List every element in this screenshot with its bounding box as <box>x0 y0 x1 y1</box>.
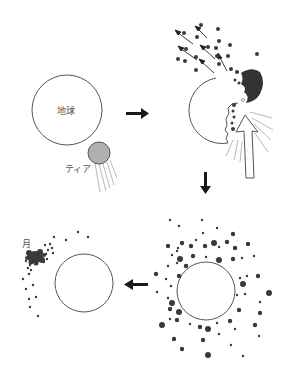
arrow-right-icon <box>126 108 149 119</box>
theia-trail <box>95 160 117 192</box>
panel-moon-formation: 月 <box>22 231 113 317</box>
panel-debris-ring <box>154 219 272 358</box>
earth-circle-ring <box>177 262 235 320</box>
arrow-down-icon <box>200 172 211 194</box>
theia-fragment <box>241 69 263 103</box>
moon-cluster <box>25 249 46 266</box>
panel-approach: 地球 ティア <box>32 75 117 192</box>
earth-circle-final <box>55 254 113 312</box>
earth-damaged-outline <box>189 78 238 144</box>
giant-impact-diagram: 地球 ティア <box>0 0 295 380</box>
theia-label: ティア <box>65 164 91 174</box>
theia-circle <box>88 142 110 164</box>
earth-label: 地球 <box>57 105 75 116</box>
arrow-left-icon <box>124 279 148 290</box>
panel-impact <box>175 23 273 178</box>
moon-label: 月 <box>22 239 31 249</box>
